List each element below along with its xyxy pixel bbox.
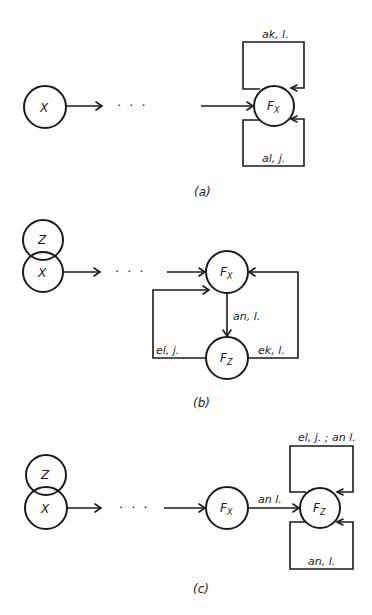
loop-top-label: ak, l. (262, 28, 289, 41)
ellipsis: · · · (117, 98, 148, 113)
diagram-canvas: X · · · ak, l. al, j. FX (a) Z X · · · a… (0, 0, 372, 615)
loop-left-label: el, j. (156, 344, 179, 357)
node-z-label: Z (40, 468, 50, 482)
loop-top (290, 446, 353, 492)
node-z-label: Z (37, 233, 47, 247)
loop-right-label: ek, l. (258, 344, 285, 357)
panel-b-caption: (b) (193, 396, 210, 410)
node-x-label: X (39, 101, 49, 115)
panel-a-caption: (a) (194, 185, 211, 199)
ellipsis: · · · (119, 500, 150, 515)
loop-top (243, 42, 304, 89)
panel-b: Z X · · · an, l. el, j. ek, l. FX FZ (b) (23, 220, 298, 410)
loop-bottom-label: al, j. (262, 152, 285, 165)
panel-c-caption: (c) (193, 582, 209, 596)
edge-fx-to-fz-label: an, l. (233, 310, 260, 323)
ellipsis: · · · (115, 264, 146, 279)
panel-a: X · · · ak, l. al, j. FX (a) (24, 28, 304, 199)
node-x-label: X (40, 502, 50, 516)
loop-bottom-label: an, l. (308, 555, 335, 568)
node-x-label: X (37, 266, 47, 280)
edge-fx-to-fz-label: an l. (258, 493, 282, 506)
panel-c: Z X · · · an l. el, j. ; an l. an, l. FX… (25, 431, 356, 596)
loop-top-label: el, j. ; an l. (298, 431, 356, 444)
